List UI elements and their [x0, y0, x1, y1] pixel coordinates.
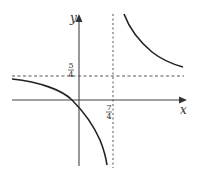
horizontal-asymptote-denominator: 4	[68, 70, 73, 79]
x-axis-label: x	[180, 103, 187, 117]
curve-right-branch	[124, 14, 183, 67]
y-axis-label: y	[69, 11, 77, 25]
vertical-asymptote-denominator: 4	[106, 112, 111, 121]
vertical-asymptote-numerator: 7	[106, 103, 111, 112]
curve-left-branch	[12, 79, 107, 165]
graph: y x 5 4 7 4	[0, 0, 197, 174]
horizontal-asymptote-numerator: 5	[68, 61, 73, 70]
